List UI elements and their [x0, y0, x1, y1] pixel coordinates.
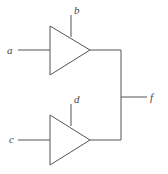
- output-junction: f: [121, 50, 155, 140]
- label-f: f: [150, 91, 155, 103]
- label-a: a: [7, 44, 13, 56]
- top-buffer-triangle: [50, 26, 90, 75]
- bottom-buffer: c d: [9, 93, 121, 165]
- tristate-buffer-diagram: a b c d f: [0, 0, 168, 174]
- top-buffer: a b: [7, 4, 121, 75]
- label-d: d: [74, 93, 80, 105]
- label-b: b: [74, 4, 80, 16]
- bottom-buffer-triangle: [50, 115, 90, 165]
- label-c: c: [9, 133, 14, 145]
